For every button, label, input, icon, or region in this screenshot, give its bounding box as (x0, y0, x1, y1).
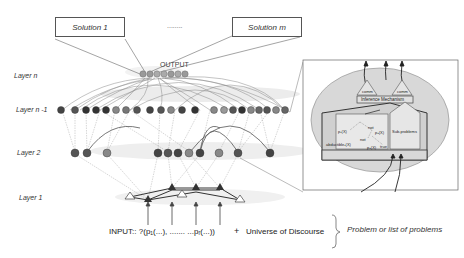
solution-m-box: Solution m (232, 17, 302, 37)
comm-right-label: comm (397, 89, 408, 94)
inset-node-p1: p₁(X) (338, 129, 347, 134)
diagram: Solution 1 ........ Solution m OUTPUT La… (0, 0, 464, 258)
inference-mechanism-label: Inference Mechanism (361, 97, 404, 102)
layer-1-label: Layer 1 (19, 194, 42, 201)
solution-1-label: Solution 1 (72, 23, 108, 32)
inset-node-abductible: abductible₁(X) (326, 142, 351, 147)
sub-problems-label: Sub-problems (392, 129, 417, 134)
output-label: OUTPUT (160, 61, 189, 68)
layer-2-label: Layer 2 (17, 149, 40, 156)
inset-node-not-1: not (368, 125, 374, 130)
inset-node-p3: p₃(X) (367, 145, 376, 150)
universe-of-discourse: Universe of Discourse (246, 227, 324, 236)
problem-note: Problem or list of problems (347, 225, 442, 234)
layer-n-label: Layer n (14, 72, 37, 79)
layer-n-1-label: Layer n -1 (16, 106, 48, 113)
comm-left-label: comm (362, 89, 373, 94)
plus-sign: + (234, 226, 239, 236)
inset-node-true: true (380, 144, 387, 149)
solution-m-label: Solution m (248, 23, 286, 32)
inset-node-p2: p₂(X) (375, 130, 384, 135)
solutions-ellipsis: ........ (167, 22, 183, 29)
inset-node-not-2: not (360, 137, 366, 142)
input-expression: INPUT:: ?(p₁(...), ....... ...pᵣ(...)) (109, 227, 215, 236)
solution-1-box: Solution 1 (55, 17, 125, 37)
